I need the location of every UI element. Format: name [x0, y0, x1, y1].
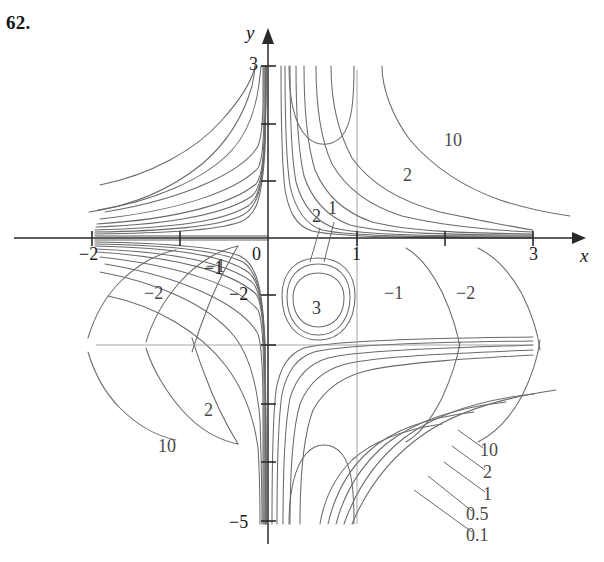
- y-tick-label--5: −5: [229, 512, 248, 533]
- contour-label-lower-right-10: 10: [480, 440, 498, 461]
- y-axis-label: y: [246, 22, 254, 44]
- x-tick-label-1: 1: [352, 244, 361, 265]
- contour-label-lower-right-2: 2: [483, 462, 492, 483]
- contour-label-lower-left-10: 10: [158, 436, 176, 457]
- contour-label-lower-right-1: 1: [483, 484, 492, 505]
- contour-label-right--2: −2: [456, 283, 475, 304]
- contour-plot-figure: 62. x y −2 −1 0 1 3 3 −2 −5 10 2 2 1 3 −…: [0, 0, 604, 562]
- contour-label-center-1: 1: [328, 198, 337, 219]
- contour-label-center-2: 2: [312, 206, 321, 227]
- y-tick-label--1: −2: [229, 284, 248, 305]
- y-tick-label-3: 3: [249, 54, 258, 75]
- x-tick-label-0: 0: [252, 244, 261, 265]
- contour-label-lower-right-0_1: 0.1: [466, 525, 489, 546]
- contour-label-upper-right-10: 10: [444, 130, 462, 151]
- problem-number: 62.: [6, 12, 30, 34]
- contour-label-center-3: 3: [312, 298, 321, 319]
- contour-label-center-left--1: −1: [206, 256, 225, 277]
- contour-label-upper-right-2: 2: [403, 165, 412, 186]
- contour-label-right--1: −1: [384, 283, 403, 304]
- x-tick-label-3: 3: [529, 244, 538, 265]
- contour-plot-svg: [0, 0, 604, 562]
- x-tick-label--2: −2: [79, 244, 98, 265]
- contour-label-lower-right-0_5: 0.5: [466, 504, 489, 525]
- contour-label-left--2: −2: [144, 283, 163, 304]
- x-axis-label: x: [580, 245, 588, 267]
- contour-label-lower-left-2: 2: [204, 400, 213, 421]
